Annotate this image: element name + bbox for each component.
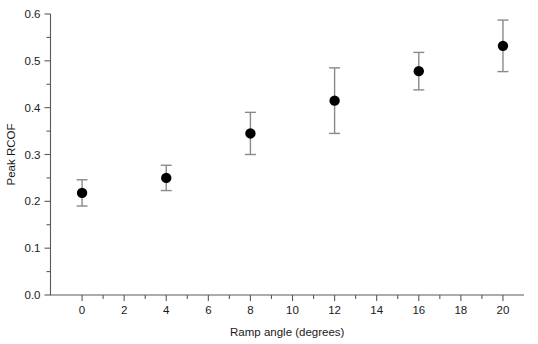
- data-point: [497, 20, 508, 72]
- tick-labels: 0.00.10.20.30.40.50.602468101214161820: [25, 8, 510, 316]
- y-axis-title: Peak RCOF: [5, 124, 17, 186]
- x-tick-label: 20: [497, 304, 510, 316]
- y-tick-label: 0.0: [25, 289, 41, 301]
- tick-marks: [45, 14, 503, 301]
- x-tick-label: 8: [247, 304, 253, 316]
- data-point: [413, 52, 424, 89]
- x-tick-label: 10: [286, 304, 299, 316]
- data-point: [161, 165, 172, 190]
- y-tick-label: 0.6: [25, 8, 41, 20]
- data-marker: [498, 41, 508, 51]
- data-point: [77, 180, 88, 206]
- data-marker: [161, 173, 171, 183]
- scatter-plot-with-error-bars: 0.00.10.20.30.40.50.602468101214161820 R…: [0, 0, 538, 344]
- data-series: [77, 20, 509, 206]
- x-tick-label: 6: [205, 304, 211, 316]
- data-point: [245, 112, 256, 154]
- axes: [51, 14, 525, 295]
- x-tick-label: 12: [328, 304, 341, 316]
- data-marker: [329, 95, 339, 105]
- x-tick-label: 2: [121, 304, 127, 316]
- y-tick-label: 0.3: [25, 149, 41, 161]
- y-tick-label: 0.1: [25, 242, 41, 254]
- x-tick-label: 16: [412, 304, 425, 316]
- chart-figure: 0.00.10.20.30.40.50.602468101214161820 R…: [0, 0, 538, 344]
- data-point: [329, 68, 340, 134]
- data-marker: [414, 66, 424, 76]
- x-tick-label: 18: [454, 304, 467, 316]
- data-marker: [245, 128, 255, 138]
- data-marker: [77, 188, 87, 198]
- x-tick-label: 14: [370, 304, 383, 316]
- y-tick-label: 0.4: [25, 102, 42, 114]
- axis-spine: [51, 14, 525, 295]
- x-axis-title: Ramp angle (degrees): [230, 326, 345, 338]
- y-tick-label: 0.5: [25, 55, 41, 67]
- x-tick-label: 0: [79, 304, 85, 316]
- y-tick-label: 0.2: [25, 195, 41, 207]
- x-tick-label: 4: [163, 304, 170, 316]
